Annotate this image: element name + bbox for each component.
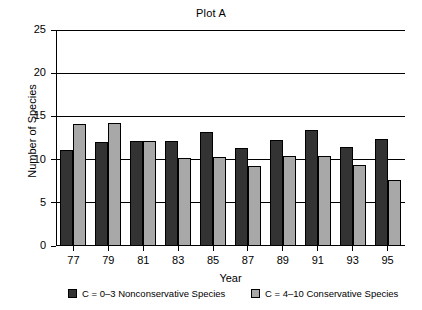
bar-93-series2 (353, 165, 366, 246)
y-tick-mark-15 (51, 116, 56, 117)
y-tick-mark-5 (51, 202, 56, 203)
bar-79-series2 (108, 123, 121, 246)
gridline-25 (56, 30, 405, 31)
x-tick-mark-83 (178, 246, 179, 251)
x-tick-mark-89 (282, 246, 283, 251)
bar-83-series2 (178, 158, 191, 246)
y-tick-mark-20 (51, 73, 56, 74)
bar-77-series2 (73, 124, 86, 246)
x-tick-label-85: 85 (198, 254, 228, 266)
bar-85-series1 (200, 132, 213, 246)
x-tick-label-93: 93 (338, 254, 368, 266)
bar-91-series1 (305, 130, 318, 246)
bar-87-series2 (248, 166, 261, 246)
bar-95-series2 (388, 180, 401, 246)
bar-81-series2 (143, 141, 156, 246)
x-tick-label-91: 91 (303, 254, 333, 266)
bar-87-series1 (235, 148, 248, 246)
legend-entry-2: C = 4–10 Conservative Species (251, 288, 398, 299)
x-tick-mark-79 (108, 246, 109, 251)
x-axis-label: Year (56, 272, 405, 284)
bar-77-series1 (60, 150, 73, 246)
x-tick-mark-85 (213, 246, 214, 251)
legend-label-2: C = 4–10 Conservative Species (265, 288, 398, 299)
plot-area: 0510152025 77798183858789919395 (56, 30, 405, 246)
bar-85-series2 (213, 157, 226, 246)
chart-title: Plot A (0, 7, 422, 19)
y-tick-mark-25 (51, 30, 56, 31)
bar-89-series1 (270, 140, 283, 246)
x-tick-label-83: 83 (163, 254, 193, 266)
legend-swatch-dark (68, 289, 77, 298)
x-tick-mark-77 (73, 246, 74, 251)
bar-89-series2 (283, 156, 296, 246)
chart-figure: Plot A Number of Species 0510152025 7779… (0, 0, 422, 310)
y-tick-label-0: 0 (6, 240, 46, 251)
y-tick-label-25: 25 (6, 24, 46, 35)
legend-label-1: C = 0–3 Nonconservative Species (82, 288, 225, 299)
x-tick-label-77: 77 (58, 254, 88, 266)
x-tick-mark-81 (143, 246, 144, 251)
bar-81-series1 (130, 141, 143, 246)
bar-79-series1 (95, 142, 108, 246)
gridline-20 (56, 73, 405, 74)
x-tick-label-89: 89 (268, 254, 298, 266)
x-tick-mark-91 (317, 246, 318, 251)
bar-83-series1 (165, 141, 178, 246)
x-tick-label-95: 95 (373, 254, 403, 266)
legend-entry-1: C = 0–3 Nonconservative Species (68, 288, 225, 299)
y-tick-mark-10 (51, 159, 56, 160)
x-tick-label-81: 81 (128, 254, 158, 266)
bar-93-series1 (340, 147, 353, 246)
y-tick-label-5: 5 (6, 197, 46, 208)
y-axis-line (56, 30, 57, 246)
x-tick-mark-93 (352, 246, 353, 251)
x-tick-mark-87 (247, 246, 248, 251)
gridline-15 (56, 116, 405, 117)
x-tick-label-87: 87 (233, 254, 263, 266)
chart-legend: C = 0–3 Nonconservative SpeciesC = 4–10 … (56, 288, 406, 304)
x-tick-mark-95 (387, 246, 388, 251)
y-tick-label-15: 15 (6, 110, 46, 121)
x-tick-label-79: 79 (93, 254, 123, 266)
y-tick-label-10: 10 (6, 154, 46, 165)
bar-95-series1 (375, 139, 388, 246)
bar-91-series2 (318, 156, 331, 246)
y-tick-mark-0 (51, 246, 56, 247)
legend-swatch-light (251, 289, 260, 298)
y-tick-label-20: 20 (6, 67, 46, 78)
